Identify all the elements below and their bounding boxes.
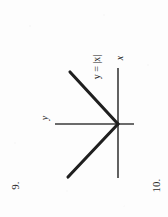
y-axis-label: y	[40, 110, 50, 126]
graph-figure: x y y = |x|	[0, 0, 168, 217]
worksheet-page: 9. 10. x y y = |x|	[0, 0, 168, 217]
coordinate-plane-svg	[0, 0, 168, 217]
x-axis-label: x	[115, 50, 125, 66]
absolute-value-right-branch	[68, 124, 118, 177]
equation-label: y = |x|	[92, 44, 102, 90]
